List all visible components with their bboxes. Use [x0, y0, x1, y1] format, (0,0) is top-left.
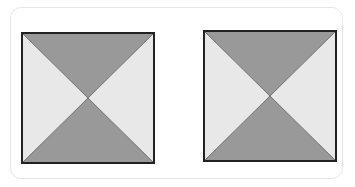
diagram-canvas	[0, 0, 355, 187]
right-square-figure	[203, 30, 337, 162]
left-square-figure	[21, 32, 155, 164]
